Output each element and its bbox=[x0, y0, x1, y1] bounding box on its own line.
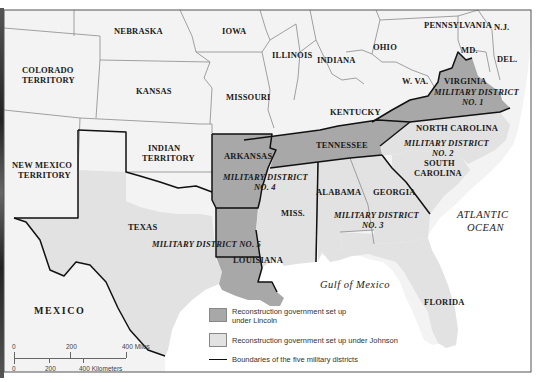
label-district-5: MILITARY DISTRICT NO. 5 bbox=[152, 239, 261, 249]
label-north-carolina: NORTH CAROLINA bbox=[416, 123, 498, 133]
label-district-3-b: NO. 3 bbox=[362, 220, 384, 230]
scale-tick-400mi bbox=[126, 352, 127, 358]
label-nj: N.J. bbox=[494, 22, 509, 32]
legend-swatch-johnson bbox=[209, 333, 227, 347]
label-ohio: OHIO bbox=[373, 42, 397, 52]
label-iowa: IOWA bbox=[222, 26, 246, 36]
label-virginia: VIRGINIA bbox=[444, 76, 487, 86]
label-colorado-1: COLORADO bbox=[22, 65, 74, 75]
legend-lincoln-2: under Lincoln bbox=[232, 316, 277, 325]
scale-mi-400: 400 Miles bbox=[122, 343, 150, 350]
label-georgia: GEORGIA bbox=[373, 187, 416, 197]
label-kentucky: KENTUCKY bbox=[330, 107, 381, 117]
label-indian-territory-1: INDIAN bbox=[148, 143, 180, 153]
label-louisiana: LOUISIANA bbox=[233, 255, 283, 265]
label-pennsylvania: PENNSYLVANIA bbox=[424, 20, 492, 30]
scale-km-200: 200 bbox=[45, 365, 56, 372]
label-district-4-a: MILITARY DISTRICT bbox=[223, 172, 308, 182]
label-indiana: INDIANA bbox=[317, 55, 356, 65]
label-wva: W. VA. bbox=[402, 76, 428, 86]
scale-mi-200: 200 bbox=[66, 343, 77, 350]
label-arkansas: ARKANSAS bbox=[224, 151, 272, 161]
scale-tick-400km bbox=[83, 358, 84, 363]
label-alabama: ALABAMA bbox=[316, 187, 361, 197]
label-district-3-a: MILITARY DISTRICT bbox=[334, 210, 419, 220]
legend-line-sample bbox=[209, 359, 227, 360]
label-new-mexico-2: TERRITORY bbox=[18, 170, 71, 180]
scale-km-400: 400 Kilometers bbox=[79, 365, 122, 372]
label-district-1-a: MILITARY DISTRICT bbox=[434, 87, 519, 97]
label-new-mexico-1: NEW MEXICO bbox=[12, 160, 72, 170]
scale-km-0: 0 bbox=[12, 365, 16, 372]
label-gulf-of-mexico: Gulf of Mexico bbox=[320, 279, 390, 291]
legend-swatch-lincoln bbox=[209, 308, 227, 322]
label-district-1-b: NO. 1 bbox=[462, 97, 484, 107]
label-md: MD. bbox=[461, 45, 478, 55]
scale-line bbox=[14, 358, 126, 359]
label-district-2-b: NO. 2 bbox=[432, 148, 454, 158]
label-district-4-b: NO. 4 bbox=[254, 182, 276, 192]
label-south-carolina-2: CAROLINA bbox=[414, 168, 462, 178]
reconstruction-map: NEBRASKA IOWA COLORADO TERRITORY KANSAS … bbox=[0, 0, 539, 382]
label-kansas: KANSAS bbox=[136, 86, 172, 96]
legend-boundaries: Boundaries of the five military district… bbox=[232, 355, 358, 364]
scale-tick-200km bbox=[49, 358, 50, 363]
label-nebraska: NEBRASKA bbox=[114, 26, 163, 36]
scale-mi-0: 0 bbox=[12, 343, 16, 350]
label-illinois: ILLINOIS bbox=[272, 50, 312, 60]
label-atlantic-1: ATLANTIC bbox=[457, 209, 508, 221]
label-mexico: MEXICO bbox=[34, 306, 85, 316]
label-indian-territory-2: TERRITORY bbox=[142, 153, 195, 163]
label-tennessee: TENNESSEE bbox=[316, 140, 368, 150]
label-colorado-2: TERRITORY bbox=[22, 75, 75, 85]
legend-lincoln-1: Reconstruction government set up bbox=[232, 307, 346, 316]
label-south-carolina-1: SOUTH bbox=[424, 158, 455, 168]
scale-tick-200mi bbox=[70, 352, 71, 358]
legend-johnson: Reconstruction government set up under J… bbox=[232, 336, 398, 345]
label-miss: MISS. bbox=[281, 208, 305, 218]
label-florida: FLORIDA bbox=[424, 297, 465, 307]
label-missouri: MISSOURI bbox=[226, 92, 271, 102]
label-district-2-a: MILITARY DISTRICT bbox=[404, 138, 489, 148]
label-texas: TEXAS bbox=[128, 222, 157, 232]
label-atlantic-2: OCEAN bbox=[467, 222, 504, 234]
label-del: DEL. bbox=[497, 54, 517, 64]
arkansas-south bbox=[216, 208, 260, 257]
scale-tick-0 bbox=[14, 352, 15, 364]
